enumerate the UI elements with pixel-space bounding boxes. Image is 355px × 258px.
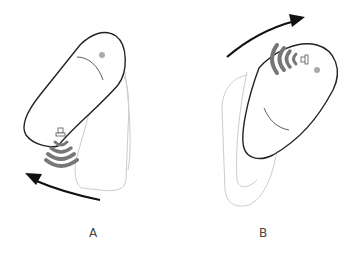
device-dot xyxy=(314,67,320,73)
panel-b-illustration xyxy=(177,0,355,258)
device-outline xyxy=(24,33,125,147)
panel-b: B xyxy=(177,0,355,258)
panel-a-illustration xyxy=(0,0,178,258)
device-outline xyxy=(243,44,337,159)
rotation-arrow-ccw-icon xyxy=(25,173,100,200)
panel-label-b: B xyxy=(259,226,267,240)
panel-a: A xyxy=(0,0,178,258)
panel-label-a: A xyxy=(89,226,97,240)
device-dot xyxy=(99,52,105,58)
